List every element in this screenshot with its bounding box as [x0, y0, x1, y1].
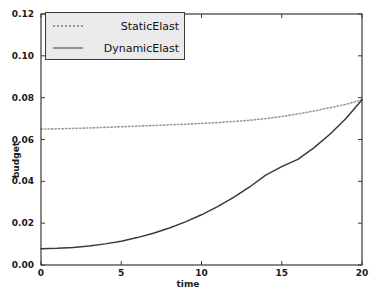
x-tick-label: 5	[118, 268, 124, 278]
y-tick-label: 0.12	[0, 9, 34, 19]
chart-legend[interactable]: StaticElast DynamicElast	[45, 12, 185, 60]
legend-item-staticelast[interactable]: StaticElast	[46, 14, 186, 38]
y-tick-label: 0.10	[0, 51, 34, 61]
x-axis-label: time	[0, 279, 376, 289]
y-tick-label: 0.00	[0, 260, 34, 270]
x-tick-label: 15	[275, 268, 288, 278]
x-tick-label: 20	[356, 268, 369, 278]
legend-item-dynamicelast[interactable]: DynamicElast	[46, 36, 186, 60]
figure: 0.000.020.040.060.080.100.12 05101520 bu…	[0, 0, 376, 299]
x-tick-label: 0	[38, 268, 44, 278]
y-tick-label: 0.08	[0, 93, 34, 103]
legend-label-staticelast: StaticElast	[85, 20, 186, 33]
legend-swatch-dotted-icon	[51, 18, 85, 34]
y-axis-label: budget	[11, 130, 21, 190]
legend-swatch-solid-icon	[51, 40, 85, 56]
x-tick-label: 10	[195, 268, 208, 278]
legend-label-dynamicelast: DynamicElast	[85, 42, 186, 55]
y-tick-label: 0.02	[0, 218, 34, 228]
